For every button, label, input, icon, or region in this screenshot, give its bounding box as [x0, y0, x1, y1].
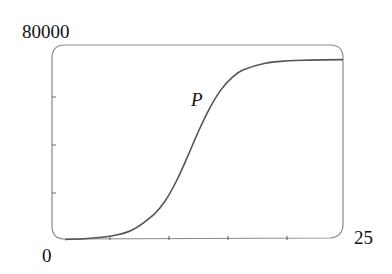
- x-min-label: 0: [42, 246, 52, 265]
- y-max-label: 80000: [22, 22, 70, 41]
- plot-frame: [52, 45, 343, 239]
- logistic-curve-p: [65, 60, 343, 240]
- x-max-label: 25: [354, 228, 373, 247]
- series-label-p: P: [191, 90, 203, 109]
